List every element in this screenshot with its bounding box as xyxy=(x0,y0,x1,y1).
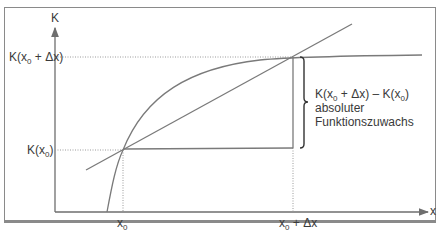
x-tick-right: x0 + Δx xyxy=(279,216,317,232)
x-tick-left: x0 xyxy=(117,216,127,232)
delta-x-segment xyxy=(123,148,293,149)
curly-brace xyxy=(300,57,308,148)
y-tick-lower: K(x0) xyxy=(27,143,53,159)
y-tick-upper: K(x0 + Δx) xyxy=(9,50,63,66)
annotation-line-absoluter: absoluter xyxy=(315,101,364,115)
y-axis-label: K xyxy=(51,11,59,25)
x-axis-label: x xyxy=(430,204,436,218)
annotation-line-funktionszuwachs: Funktionszuwachs xyxy=(315,115,414,129)
function-curve xyxy=(107,55,422,212)
